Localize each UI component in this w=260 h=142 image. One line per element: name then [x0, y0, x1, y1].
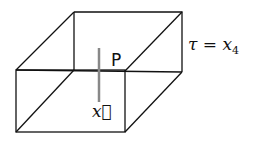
- back-top-edges: [74, 12, 182, 72]
- time-eq-text: τ = x: [188, 34, 232, 54]
- box-diagram: [0, 0, 260, 142]
- vector-label: x⃗: [92, 101, 112, 121]
- left-bottom-diagonal: [16, 70, 74, 132]
- time-equation: τ = x4: [188, 34, 239, 57]
- left-top-diagonal: [16, 12, 74, 70]
- point-label: P: [111, 50, 121, 70]
- right-top-diagonal: [125, 12, 182, 71]
- right-bottom-diagonal: [125, 72, 182, 132]
- time-eq-subscript: 4: [232, 44, 239, 57]
